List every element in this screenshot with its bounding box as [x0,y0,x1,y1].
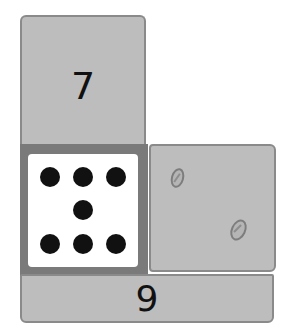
dot-icon [73,200,93,220]
dot-icon [106,234,126,254]
dot-icon [73,167,93,187]
dot-icon [73,234,93,254]
top-number-card: 7 [20,15,146,150]
counter-card [149,144,276,272]
top-number-label: 7 [22,67,144,105]
dot-icon [40,167,60,187]
bottom-number-card: 9 [20,274,274,323]
dot-card-frame [20,144,148,276]
seed-icon [169,167,187,190]
seed-icon [227,217,250,243]
bottom-number-label: 9 [22,281,272,317]
dot-icon [106,167,126,187]
dot-icon [40,234,60,254]
dot-pattern-card [28,154,138,267]
